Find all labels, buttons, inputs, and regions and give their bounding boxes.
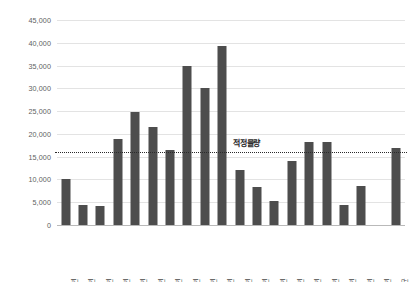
bar-slot	[248, 20, 265, 225]
bar-slot	[353, 20, 370, 225]
bar-slot	[214, 20, 231, 225]
y-tick-label: 25,000	[28, 107, 51, 116]
bar[interactable]	[131, 112, 140, 225]
bar-slot	[92, 20, 109, 225]
bar[interactable]	[183, 66, 192, 225]
bar[interactable]	[166, 150, 175, 225]
bar[interactable]	[61, 179, 70, 225]
bar-slot	[109, 20, 126, 225]
bar-slot	[57, 20, 74, 225]
y-tick-label: 35,000	[28, 61, 51, 70]
bar-slot	[335, 20, 352, 225]
bar-slot	[179, 20, 196, 225]
bar-slot	[283, 20, 300, 225]
bar-slot	[231, 20, 248, 225]
bar-slot	[127, 20, 144, 225]
bar-slot	[161, 20, 178, 225]
bar[interactable]	[305, 142, 314, 225]
y-tick-label: 10,000	[28, 175, 51, 184]
y-tick-label: 20,000	[28, 129, 51, 138]
bar[interactable]	[79, 205, 88, 225]
y-tick-label: 5,000	[33, 198, 52, 207]
threshold-label: 적정물량	[233, 137, 260, 148]
x-axis-tick-labels: 2010년2011년2012년2013년2014년2015년2016년2017년…	[57, 227, 405, 282]
y-tick-label: 0	[47, 221, 51, 230]
bar[interactable]	[218, 46, 227, 225]
bar[interactable]	[340, 205, 349, 225]
bar[interactable]	[322, 142, 331, 225]
threshold-line	[55, 152, 407, 153]
bar-slot	[318, 20, 335, 225]
y-tick-label: 45,000	[28, 16, 51, 25]
bar[interactable]	[270, 201, 279, 225]
y-tick-label: 15,000	[28, 152, 51, 161]
bar-slot	[74, 20, 91, 225]
bar[interactable]	[200, 88, 209, 225]
y-tick-label: 30,000	[28, 84, 51, 93]
bars-group	[57, 20, 405, 225]
bar[interactable]	[357, 186, 366, 225]
bar-slot	[388, 20, 405, 225]
bar[interactable]	[96, 206, 105, 225]
bar[interactable]	[148, 127, 157, 225]
y-tick-label: 40,000	[28, 38, 51, 47]
gridline	[57, 225, 405, 226]
bar[interactable]	[253, 187, 262, 225]
plot-area: 적정물량	[57, 20, 405, 225]
bar[interactable]	[287, 161, 296, 225]
bar-slot	[266, 20, 283, 225]
bar[interactable]	[235, 170, 244, 225]
bar-slot	[370, 20, 387, 225]
bar-slot	[196, 20, 213, 225]
bar-slot	[301, 20, 318, 225]
bar[interactable]	[392, 148, 401, 225]
bar-chart: 적정물량 05,00010,00015,00020,00025,00030,00…	[0, 0, 412, 282]
bar-slot	[144, 20, 161, 225]
